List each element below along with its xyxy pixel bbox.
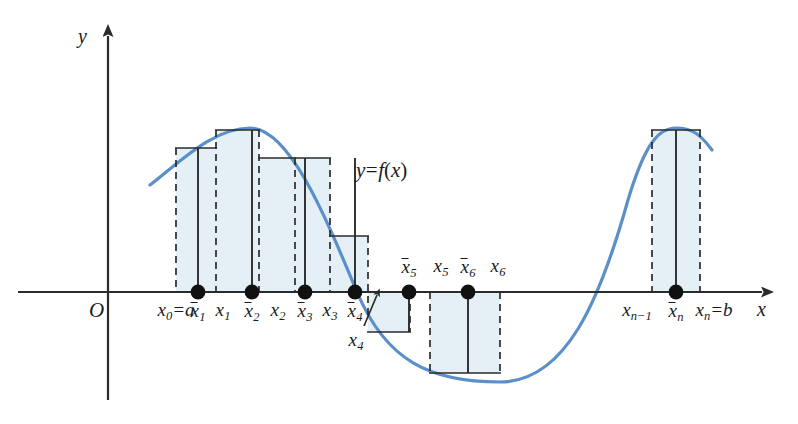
tick-subscript: 2 (279, 309, 285, 323)
riemann-rect-fill-1 (176, 148, 216, 292)
dot-xbar3 (298, 285, 313, 300)
tick-label-xbar5: x5 (402, 256, 417, 280)
tick-subscript: 5 (410, 266, 416, 280)
x-axis-label: x (757, 299, 766, 319)
tick-label-xn-equals-b: xn=b (695, 300, 732, 323)
riemann-sum-figure: y x O y=f(x) x0=ax1x1x2x2x3x3x4x5x5x6x6x… (0, 0, 798, 424)
function-label-close-paren: ) (400, 158, 407, 182)
tick-label-xbar3: x3 (298, 300, 313, 324)
tick-label-xbar1: x1 (191, 300, 206, 324)
rectangle-fills (176, 130, 700, 373)
tick-subscript: 4 (356, 310, 362, 324)
dot-xbar5 (402, 285, 417, 300)
tick-base: x (491, 255, 499, 276)
tick-subscript: 3 (331, 309, 337, 323)
tick-base: x (461, 256, 469, 276)
tick-label-x2: x2 (271, 300, 286, 323)
tick-base: x (402, 256, 410, 276)
function-label-arg: x (391, 158, 400, 182)
function-label: y=f(x) (356, 160, 407, 181)
tick-label-x1: x1 (216, 300, 231, 323)
dot-xbarn (669, 285, 684, 300)
tick-base: x (695, 299, 703, 320)
tick-label-xn-minus-1: xn−1 (622, 300, 652, 323)
tick-base: x (298, 300, 306, 320)
tick-subscript: n (677, 310, 683, 324)
origin-label: O (89, 300, 104, 321)
tick-base: x (622, 299, 630, 320)
tick-base: x (157, 299, 165, 320)
x4-callout-sub: 4 (357, 339, 363, 353)
y-axis-label: y (78, 26, 87, 46)
function-label-lhs: y (356, 158, 365, 182)
tick-base: x (191, 300, 199, 320)
dot-xbar2 (245, 285, 260, 300)
x4-callout-label: x4 (349, 330, 364, 353)
tick-label-x5: x5 (434, 256, 449, 279)
function-label-open-paren: ( (384, 158, 391, 182)
riemann-rect-fill-7 (430, 292, 500, 373)
tick-label-x3: x3 (323, 300, 338, 323)
tick-label-xbar2: x2 (245, 300, 260, 324)
tick-label-xbarn: xn (669, 300, 684, 324)
tick-label-xbar6: x6 (461, 256, 476, 280)
tick-label-xbar4: x4 (348, 300, 363, 324)
tick-subscript: 6 (469, 266, 475, 280)
tick-base: x (271, 299, 279, 320)
tick-subscript: 1 (224, 309, 230, 323)
tick-base: x (323, 299, 331, 320)
riemann-rect-fill-3 (259, 158, 295, 292)
riemann-rect-fill-4 (295, 158, 330, 292)
tick-subscript: n−1 (631, 309, 652, 323)
x4-callout-base: x (349, 329, 357, 350)
figure-canvas (0, 0, 798, 424)
tick-subscript: 2 (253, 310, 259, 324)
function-label-equals: = (366, 158, 378, 182)
tick-subscript: 3 (306, 310, 312, 324)
tick-suffix: =b (710, 299, 732, 320)
tick-base: x (245, 300, 253, 320)
tick-subscript: 6 (499, 265, 505, 279)
dot-xbar6 (461, 285, 476, 300)
dot-xbar4 (348, 285, 363, 300)
tick-base: x (216, 299, 224, 320)
dot-xbar1 (191, 285, 206, 300)
tick-base: x (434, 255, 442, 276)
tick-subscript: 5 (442, 265, 448, 279)
tick-base: x (348, 300, 356, 320)
tick-label-x0-equals-a: x0=a (157, 300, 194, 323)
tick-subscript: 1 (199, 310, 205, 324)
tick-label-x6: x6 (491, 256, 506, 279)
tick-base: x (669, 300, 677, 320)
